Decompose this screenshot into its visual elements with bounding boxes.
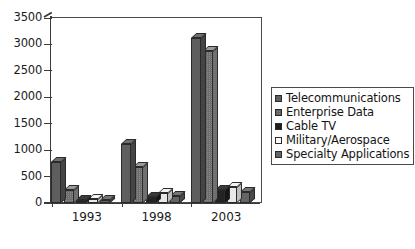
- y-axis-tick-label: 1000: [14, 144, 42, 155]
- bar-side-face: [213, 47, 218, 203]
- bar-chart-figure: 0500100015002000250030003500 19931998200…: [0, 0, 415, 249]
- chart-legend: Telecommunications Enterprise Data Cable…: [271, 87, 414, 165]
- y-axis-tick: [44, 97, 52, 98]
- y-axis-tick-label: 0: [35, 197, 42, 208]
- legend-item-label: Cable TV: [286, 120, 336, 133]
- bar-side-face: [143, 162, 148, 203]
- legend-item: Military/Aerospace: [275, 133, 409, 147]
- bar-side-face: [131, 139, 136, 203]
- legend-item-label: Specialty Applications: [286, 148, 409, 161]
- legend-swatch-icon: [275, 95, 282, 102]
- y-axis-tick: [44, 123, 52, 124]
- y-axis-tick: [44, 18, 52, 19]
- bar: [121, 144, 131, 203]
- y-axis-tick-label: 2000: [14, 91, 42, 102]
- legend-item-label: Enterprise Data: [286, 106, 374, 119]
- x-axis-tick-label: 1998: [127, 210, 187, 224]
- legend-item: Enterprise Data: [275, 105, 409, 119]
- legend-swatch-icon: [275, 109, 282, 116]
- legend-item: Cable TV: [275, 119, 409, 133]
- y-axis-tick-label: 3500: [14, 12, 42, 23]
- bar: [76, 200, 86, 203]
- bar-front-face: [51, 162, 61, 203]
- bar-front-face: [76, 200, 86, 203]
- bar-side-face: [61, 157, 66, 203]
- bar-front-face: [191, 38, 201, 203]
- x-axis-tick-label: 2003: [196, 210, 256, 224]
- bar: [100, 200, 110, 203]
- y-axis-tick: [44, 44, 52, 45]
- legend-swatch-icon: [275, 137, 282, 144]
- legend-swatch-icon: [275, 151, 282, 158]
- legend-item-label: Military/Aerospace: [286, 134, 390, 147]
- legend-swatch-icon: [275, 123, 282, 130]
- bar-front-face: [121, 144, 131, 203]
- y-axis-tick-label: 2500: [14, 65, 42, 76]
- x-axis-tick-label: 1993: [57, 210, 117, 224]
- plot-area: [51, 17, 262, 203]
- legend-item: Specialty Applications: [275, 147, 409, 161]
- y-axis-tick-label: 500: [21, 171, 42, 182]
- bar-front-face: [100, 200, 110, 203]
- bar-side-face: [201, 34, 206, 203]
- bar: [51, 162, 61, 203]
- legend-item: Telecommunications: [275, 91, 409, 105]
- y-axis-tick: [44, 150, 52, 151]
- y-axis-tick-label: 3000: [14, 38, 42, 49]
- y-axis-tick-label: 1500: [14, 118, 42, 129]
- y-axis-tick: [44, 70, 52, 71]
- legend-item-label: Telecommunications: [286, 92, 401, 105]
- bar: [191, 38, 201, 203]
